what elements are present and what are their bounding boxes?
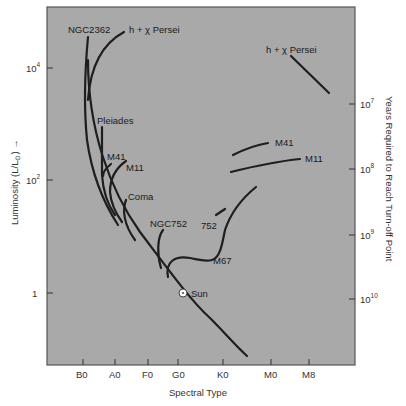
label-m41-right: M41 (275, 137, 293, 148)
x-tick-label-k0: K0 (217, 369, 229, 380)
x-tick-label-m0: M0 (264, 369, 277, 380)
label-coma: Coma (128, 191, 154, 202)
y-right-axis-title: Years Required to Reach Turn-off Point (384, 96, 395, 262)
label-ngc2362: NGC2362 (68, 24, 110, 35)
hr-diagram-chart: NGC2362 h + χ Persei h + χ Persei Pleiad… (0, 0, 406, 406)
right-tick-label-1e7: 107 (360, 97, 375, 110)
right-tick-label-1e8: 108 (360, 162, 375, 175)
label-sun: Sun (191, 288, 208, 299)
label-752: 752 (201, 220, 217, 231)
label-m41-left: M41 (107, 151, 125, 162)
x-tick-label-m8: M8 (302, 369, 315, 380)
plot-area (47, 7, 355, 365)
left-tick-label-1e2: 102 (26, 173, 41, 186)
label-hx-persei-right: h + χ Persei (266, 44, 317, 55)
label-m11-right: M11 (305, 153, 323, 164)
left-tick-label-1: 1 (32, 288, 37, 299)
right-tick-label-1e9: 109 (360, 228, 375, 241)
x-tick-label-f0: F0 (142, 369, 153, 380)
label-pleiades: Pleiades (97, 115, 134, 126)
right-tick-label-1e10: 1010 (360, 292, 378, 305)
label-m67: M67 (213, 255, 231, 266)
sun-marker-dot (182, 292, 184, 294)
left-tick-label-1e4: 104 (26, 61, 41, 74)
label-hx-persei-top: h + χ Persei (129, 24, 180, 35)
label-m11-left: M11 (126, 162, 144, 173)
x-tick-label-a0: A0 (109, 369, 121, 380)
y-axis-title: Luminosity (L/L⊙) → (9, 139, 21, 225)
label-ngc752: NGC752 (150, 218, 187, 229)
x-tick-label-b0: B0 (76, 369, 88, 380)
x-axis-title: Spectral Type (169, 387, 227, 398)
x-tick-label-g0: G0 (172, 369, 185, 380)
